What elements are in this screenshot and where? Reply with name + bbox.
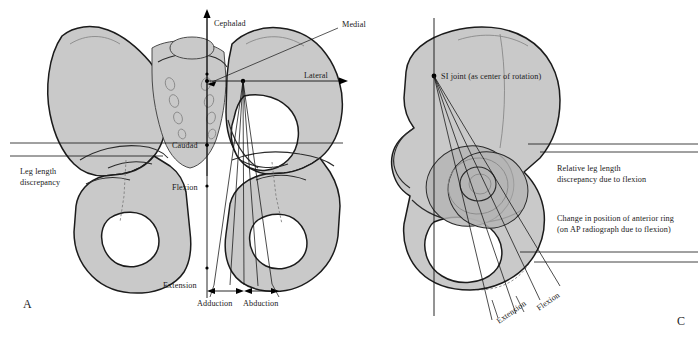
panel-label-a: A	[23, 297, 32, 311]
label-leg-length-line2: discrepancy	[20, 178, 61, 187]
pelvis-rotation-figure: Cephalad Caudad Medial Lateral Flexion E…	[0, 0, 698, 347]
relative-lld-reference-lines	[528, 144, 698, 152]
caudad-tick	[205, 143, 209, 147]
label-relative-lld-line2: discrepancy due to flexion	[557, 175, 646, 184]
label-medial: Medial	[342, 20, 366, 29]
label-adduction: Adduction	[197, 299, 232, 308]
label-flexion-a: Flexion	[172, 183, 198, 192]
left-iliac-wing	[48, 27, 166, 176]
label-anterior-ring-line1: Change in position of anterior ring	[557, 214, 674, 223]
label-lateral: Lateral	[304, 71, 329, 80]
label-cephalad: Cephalad	[214, 19, 246, 28]
label-leg-length-line1: Leg length	[20, 167, 56, 176]
label-relative-lld-line1: Relative leg length	[557, 164, 621, 173]
panel-a-group: Cephalad Caudad Medial Lateral Flexion E…	[10, 9, 366, 311]
left-obturator-foramen	[102, 212, 159, 267]
label-caudad: Caudad	[172, 141, 198, 150]
panel-label-c: C	[677, 314, 685, 328]
anterior-ring-reference-lines	[520, 252, 698, 262]
right-obturator-foramen	[250, 214, 307, 269]
label-extension-a: Extension	[163, 281, 197, 290]
label-si-joint: SI joint (as center of rotation)	[441, 72, 541, 81]
label-anterior-ring-line2: (on AP radiograph due to flexion)	[557, 225, 671, 234]
label-flexion-c: Flexion	[535, 291, 561, 313]
label-extension-c: Extension	[495, 299, 528, 326]
label-abduction: Abduction	[243, 299, 278, 308]
panel-c-group: SI joint (as center of rotation) Relativ…	[392, 18, 698, 328]
